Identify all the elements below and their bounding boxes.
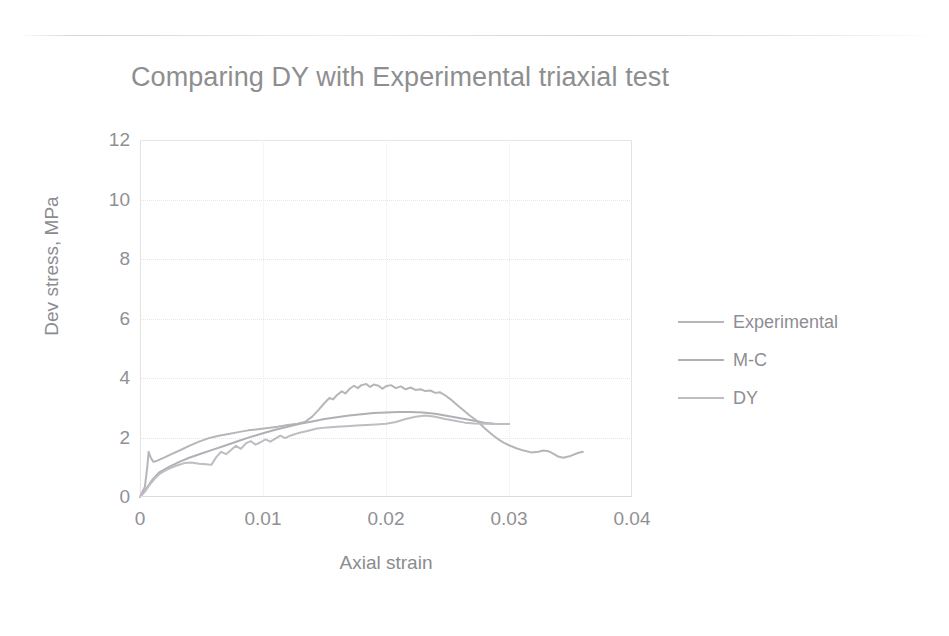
x-tick-label: 0.03 bbox=[469, 508, 549, 530]
legend-item-m-c[interactable]: M-C bbox=[678, 341, 918, 379]
x-axis-line bbox=[140, 496, 632, 497]
x-axis-title: Axial strain bbox=[140, 552, 632, 574]
x-tick-label: 0.04 bbox=[592, 508, 672, 530]
scan-artifact-line bbox=[18, 35, 936, 36]
series-layer bbox=[140, 140, 632, 497]
x-axis-tick-labels: 00.010.020.030.04 bbox=[140, 508, 632, 536]
series-line-m-c bbox=[140, 412, 509, 497]
legend-label: Experimental bbox=[733, 312, 838, 333]
x-tick-label: 0.01 bbox=[223, 508, 303, 530]
x-tick-label: 0 bbox=[100, 508, 180, 530]
y-tick-label: 8 bbox=[86, 248, 130, 270]
chart-legend: ExperimentalM-CDY bbox=[678, 303, 918, 417]
chart-title: Comparing DY with Experimental triaxial … bbox=[0, 62, 800, 93]
y-axis-title: Dev stress, MPa bbox=[41, 166, 63, 366]
y-tick-label: 0 bbox=[86, 486, 130, 508]
y-tick-label: 12 bbox=[86, 129, 130, 151]
plot-area bbox=[140, 140, 632, 497]
y-axis-tick-labels: 024681012 bbox=[78, 140, 130, 497]
x-tick-label: 0.02 bbox=[346, 508, 426, 530]
chart-figure: Comparing DY with Experimental triaxial … bbox=[0, 0, 949, 636]
legend-item-dy[interactable]: DY bbox=[678, 379, 918, 417]
legend-label: M-C bbox=[733, 350, 767, 371]
legend-swatch-icon bbox=[678, 397, 724, 399]
legend-swatch-icon bbox=[678, 359, 724, 361]
legend-label: DY bbox=[733, 388, 758, 409]
y-tick-label: 6 bbox=[86, 308, 130, 330]
y-tick-label: 10 bbox=[86, 189, 130, 211]
y-tick-label: 2 bbox=[86, 427, 130, 449]
legend-item-experimental[interactable]: Experimental bbox=[678, 303, 918, 341]
series-line-experimental bbox=[140, 384, 583, 497]
legend-swatch-icon bbox=[678, 321, 724, 323]
y-tick-label: 4 bbox=[86, 367, 130, 389]
